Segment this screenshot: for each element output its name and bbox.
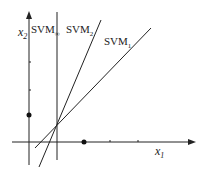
x1-axis bbox=[12, 139, 196, 145]
x1-axis-label: x1 bbox=[154, 144, 164, 160]
svm-1-line bbox=[35, 28, 151, 148]
svm-infinity-label: SVM∞ bbox=[31, 23, 60, 38]
svm-2-line bbox=[39, 20, 101, 167]
x-axis-arrow-icon bbox=[188, 139, 196, 145]
data-point-x1 bbox=[82, 140, 87, 145]
svm-2-label: SVM2 bbox=[66, 23, 94, 38]
y-axis-arrow-icon bbox=[26, 11, 32, 19]
data-point-x2 bbox=[27, 113, 32, 118]
x2-axis-label: x2 bbox=[17, 25, 27, 41]
svm-diagram: x2 SVM∞ SVM2 SVM1 x1 bbox=[0, 0, 204, 172]
svm-1-label: SVM1 bbox=[104, 35, 132, 50]
